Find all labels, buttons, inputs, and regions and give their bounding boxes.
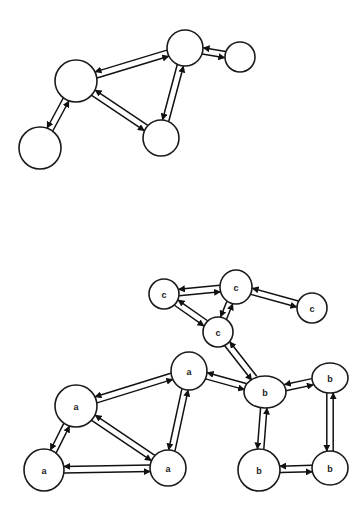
bottom-node-c4: c <box>203 317 233 347</box>
bottom-edge-a4-to-a3 <box>64 465 150 466</box>
bottom-edge-a3-to-a1 <box>56 426 69 453</box>
top-edge-t5-to-t3 <box>169 66 184 121</box>
bottom-edge-c3-to-c2 <box>252 288 298 301</box>
bottom-node-c1: c <box>149 279 179 309</box>
bottom-edge-a2-to-b1 <box>206 379 245 390</box>
top-edge-t3-to-t1 <box>95 50 167 72</box>
bottom-edge-a2-to-a4 <box>169 389 182 450</box>
node-label: c <box>309 304 314 314</box>
bottom-node-c3: c <box>297 293 327 323</box>
top-edge-t3-to-t5 <box>163 65 178 120</box>
top-edge-t2-to-t1 <box>53 101 69 131</box>
node-label: c <box>161 290 166 300</box>
bottom-node-a4: a <box>150 450 186 486</box>
bottom-edge-c1-to-c2 <box>179 292 220 296</box>
top-node-t2 <box>19 127 61 169</box>
bottom-node-b4: b <box>312 451 348 485</box>
bottom-edge-a1-to-a4 <box>92 420 152 460</box>
bottom-node-c2: c <box>220 270 252 304</box>
bottom-edge-c4-to-b1 <box>225 346 252 380</box>
node-label: c <box>233 283 238 293</box>
node-circle <box>225 42 255 72</box>
bottom-edge-a3-to-a4 <box>64 471 150 472</box>
bottom-edge-c4-to-c2 <box>227 304 233 319</box>
bottom-edge-b3-to-b4 <box>280 472 312 473</box>
bottom-edge-b2-to-b1 <box>285 379 312 385</box>
node-label: b <box>327 374 333 384</box>
bottom-edge-a4-to-a1 <box>95 415 155 455</box>
bottom-edge-b1-to-b2 <box>286 385 313 391</box>
bottom-graph-nodes: ccccaaaabbbb <box>24 270 348 491</box>
bottom-edge-b1-to-c4 <box>230 342 257 376</box>
top-node-t5 <box>143 120 179 156</box>
bottom-node-b2: b <box>312 363 348 393</box>
node-label: b <box>256 466 262 476</box>
bottom-edge-b3-to-b1 <box>264 408 267 449</box>
bottom-edge-a2-to-a1 <box>95 373 171 396</box>
bottom-edge-a1-to-a3 <box>50 423 63 450</box>
bottom-node-b3: b <box>238 449 280 491</box>
bottom-edge-b1-to-b3 <box>257 408 260 449</box>
node-circle <box>167 30 203 66</box>
top-node-t4 <box>225 42 255 72</box>
top-edge-t1-to-t5 <box>92 95 145 130</box>
top-edge-t3-to-t4 <box>202 54 224 58</box>
bottom-edge-c2-to-c4 <box>221 301 227 316</box>
bottom-node-a2: a <box>171 352 207 390</box>
bottom-edge-c2-to-c1 <box>179 285 220 289</box>
node-circle <box>19 127 61 169</box>
bottom-edge-a4-to-a2 <box>175 390 188 451</box>
node-label: b <box>327 464 333 474</box>
top-node-t1 <box>55 60 97 102</box>
bottom-edge-c2-to-c3 <box>251 294 297 307</box>
top-node-t3 <box>167 30 203 66</box>
node-label: c <box>215 328 220 338</box>
top-edge-t4-to-t3 <box>203 48 225 52</box>
top-edge-t1-to-t3 <box>97 56 169 78</box>
top-edge-t1-to-t2 <box>47 98 63 128</box>
bottom-edge-b1-to-a2 <box>207 373 246 384</box>
top-edge-t5-to-t1 <box>95 90 148 125</box>
bottom-node-b1: b <box>244 376 286 408</box>
node-circle <box>143 120 179 156</box>
bottom-edge-a1-to-a2 <box>97 379 173 402</box>
graph-diagram: ccccaaaabbbb <box>0 0 357 518</box>
bottom-node-a3: a <box>24 449 64 491</box>
node-label: b <box>262 388 268 398</box>
node-circle <box>55 60 97 102</box>
bottom-edge-b4-to-b3 <box>280 465 312 466</box>
bottom-node-a1: a <box>55 385 97 427</box>
